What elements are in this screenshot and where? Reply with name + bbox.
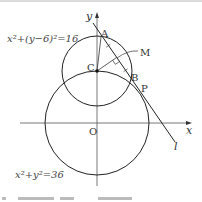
geometry-figure: y x O A C M B P l x²+(y−6)²=16 x²+y²=36: [0, 0, 202, 202]
point-M-label: M: [140, 47, 150, 58]
small-circle-equation: x²+(y−6)²=16: [7, 33, 79, 44]
point-C-dot: [95, 69, 99, 73]
y-axis-label: y: [85, 10, 93, 23]
point-B-label: B: [131, 72, 138, 83]
x-axis-label: x: [186, 124, 193, 137]
line-l-label: l: [174, 140, 178, 153]
segment-CA: [97, 37, 101, 71]
big-circle-equation: x²+y²=36: [15, 169, 64, 180]
segment-CM: [97, 57, 117, 71]
cutoff-text-row: [2, 197, 132, 200]
y-axis-arrow-icon: [95, 12, 99, 18]
origin-label: O: [89, 126, 97, 137]
point-A-label: A: [100, 28, 109, 39]
point-P-label: P: [141, 83, 148, 94]
point-C-label: C: [87, 62, 95, 73]
